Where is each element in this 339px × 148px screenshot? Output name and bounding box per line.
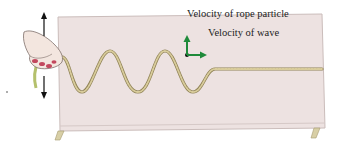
particle-velocity-label: Velocity of rope particle: [187, 9, 289, 20]
diagram-canvas: [0, 0, 339, 148]
table-leg-right: [311, 128, 320, 138]
stray-mark: [6, 91, 8, 93]
wave-velocity-label: Velocity of wave: [208, 28, 279, 39]
wave-diagram: Velocity of rope particle Velocity of wa…: [0, 0, 339, 148]
hand-shaking-rope-icon: [23, 31, 62, 69]
table-leg-left: [55, 131, 64, 140]
table: [55, 14, 325, 140]
